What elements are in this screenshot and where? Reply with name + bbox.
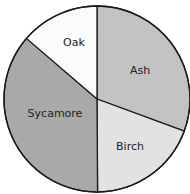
pie-slices [4,6,190,192]
slice-label-sycamore: Sycamore [28,107,83,120]
slice-label-oak: Oak [63,36,85,49]
slice-label-birch: Birch [116,140,144,153]
pie-chart: Ash Birch Sycamore Oak [0,0,190,194]
slice-label-ash: Ash [130,64,150,77]
